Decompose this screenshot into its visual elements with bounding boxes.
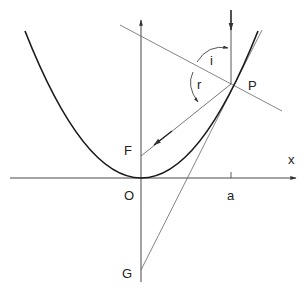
label-r: r (197, 77, 202, 92)
label-i: i (210, 53, 213, 68)
label-g: G (122, 266, 132, 281)
label-x: x (288, 152, 295, 167)
reflected-ray-arrow (154, 131, 172, 145)
label-p: P (248, 78, 257, 93)
label-a: a (227, 188, 235, 203)
parabola-reflection-diagram: i r P F x O a G (0, 0, 305, 292)
label-f: F (124, 143, 132, 158)
label-o: O (124, 188, 134, 203)
